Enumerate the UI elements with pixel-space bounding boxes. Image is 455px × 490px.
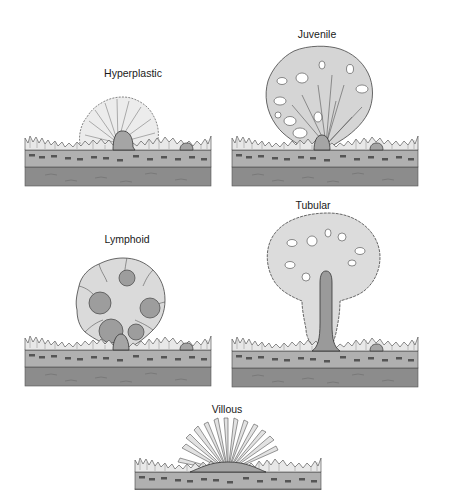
juvenile-polyp bbox=[266, 46, 372, 149]
panel-lymphoid bbox=[25, 252, 211, 386]
panel-villous bbox=[130, 418, 326, 490]
label-hyperplastic: Hyperplastic bbox=[104, 67, 162, 79]
panel-hyperplastic bbox=[25, 85, 211, 187]
panel-tubular bbox=[232, 213, 418, 386]
label-tubular: Tubular bbox=[295, 199, 330, 211]
label-juvenile: Juvenile bbox=[298, 28, 337, 40]
villous-base bbox=[190, 462, 266, 472]
label-lymphoid: Lymphoid bbox=[104, 233, 149, 245]
panel-juvenile bbox=[232, 45, 418, 187]
label-villous: Villous bbox=[212, 403, 243, 415]
